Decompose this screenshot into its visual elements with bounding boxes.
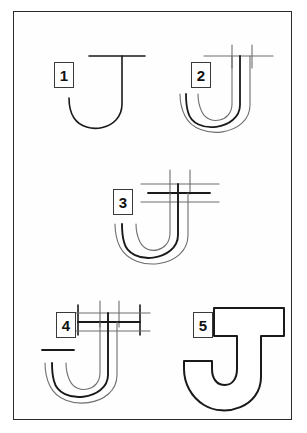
step-5-drawing bbox=[159, 287, 293, 421]
plate-frame: 1 2 3 4 5 bbox=[13, 11, 292, 420]
step-number-badge-2: 2 bbox=[191, 62, 211, 88]
step-5-finished bbox=[159, 287, 293, 421]
step-number-badge-4: 4 bbox=[56, 312, 76, 338]
step-number-label: 2 bbox=[197, 68, 205, 83]
step-4-drawing bbox=[22, 287, 172, 421]
step-4-serif-marks bbox=[22, 287, 172, 421]
step-number-label: 5 bbox=[199, 318, 207, 333]
step-number-label: 3 bbox=[119, 195, 127, 210]
step-3-top-guides bbox=[86, 132, 236, 282]
step-number-label: 1 bbox=[60, 68, 68, 83]
step-number-badge-3: 3 bbox=[113, 189, 133, 215]
tutorial-plate: 1 2 3 4 5 bbox=[0, 0, 307, 433]
step-2-drawing bbox=[154, 12, 293, 147]
step-1-drawing bbox=[14, 12, 154, 142]
step-number-badge-5: 5 bbox=[193, 312, 213, 338]
step-1-skeleton bbox=[14, 12, 154, 142]
step-2-outline-curve bbox=[154, 12, 293, 147]
step-number-label: 4 bbox=[62, 318, 70, 333]
step-3-drawing bbox=[86, 132, 236, 282]
step-number-badge-1: 1 bbox=[54, 62, 74, 88]
